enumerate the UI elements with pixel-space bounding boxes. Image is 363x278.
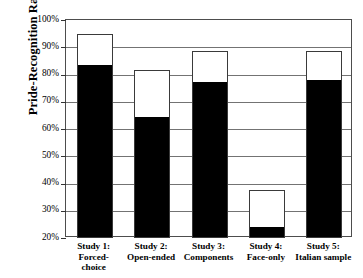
bar-black-segment <box>193 82 227 237</box>
bar-black-segment <box>135 117 169 237</box>
bar <box>249 190 285 238</box>
y-axis-tick <box>61 129 66 130</box>
x-axis-label-line: Study 5: <box>289 241 358 252</box>
y-axis-tick <box>61 75 66 76</box>
bar <box>77 34 113 238</box>
y-axis-tick <box>61 20 66 21</box>
x-axis-label-line: Italian sample <box>289 252 358 263</box>
bar <box>306 51 342 238</box>
y-axis-tick-label: 30% <box>19 205 59 214</box>
y-axis-tick <box>61 47 66 48</box>
x-axis-label-line: choice <box>59 262 128 273</box>
y-axis-tick <box>61 156 66 157</box>
bar-black-segment <box>78 65 112 237</box>
y-axis-tick <box>61 102 66 103</box>
x-axis-category-label: Study 5:Italian sample <box>289 241 358 262</box>
y-axis-tick-label: 70% <box>19 96 59 105</box>
bar-black-segment <box>250 227 284 237</box>
y-axis-tick-label: 80% <box>19 69 59 78</box>
bar-black-segment <box>307 80 341 237</box>
bar <box>134 70 170 238</box>
y-axis-tick-label: 60% <box>19 124 59 133</box>
y-axis-tick <box>61 211 66 212</box>
y-axis-tick <box>61 184 66 185</box>
y-axis-tick-label: 90% <box>19 42 59 51</box>
y-axis-tick-label: 50% <box>19 151 59 160</box>
plot-area <box>65 19 352 237</box>
bar <box>192 51 228 238</box>
y-axis-tick-label: 20% <box>19 233 59 242</box>
y-axis-tick-label: 40% <box>19 178 59 187</box>
chart-container: Pride-Recognition Rate 100%90%80%70%60%5… <box>0 0 363 278</box>
y-axis-tick <box>61 238 66 239</box>
y-axis-tick-label: 100% <box>19 15 59 24</box>
